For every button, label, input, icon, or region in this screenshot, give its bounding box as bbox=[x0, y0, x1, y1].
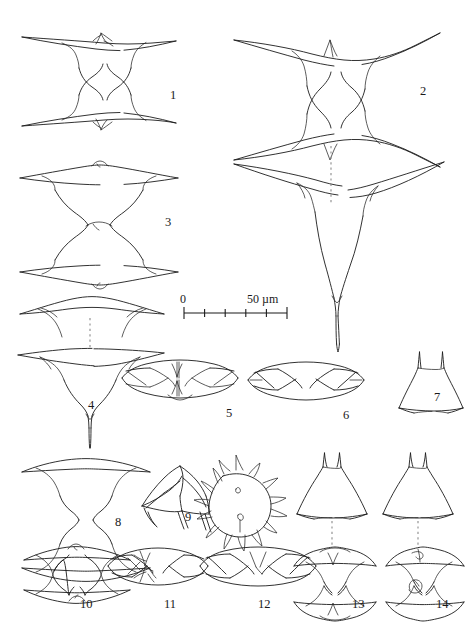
figure-label-8: 8 bbox=[115, 516, 121, 529]
figure-5-drawing bbox=[122, 360, 238, 400]
illustration-plate: 0 50 µm 1 2 3 4 5 6 7 8 9 10 11 12 13 14 bbox=[0, 0, 472, 641]
figure-label-1: 1 bbox=[170, 89, 176, 102]
figure-3-drawing bbox=[20, 161, 178, 289]
figure-14-drawing bbox=[383, 453, 464, 621]
figure-11-drawing bbox=[108, 548, 208, 585]
figure-label-2: 2 bbox=[420, 85, 426, 98]
scale-bar-graphic bbox=[184, 307, 287, 319]
figure-label-14: 14 bbox=[436, 598, 449, 611]
figure-label-10: 10 bbox=[80, 598, 93, 611]
figure-12-drawing bbox=[200, 547, 316, 586]
figure-6-drawing bbox=[248, 362, 364, 400]
figure-label-6: 6 bbox=[343, 409, 349, 422]
figure-7-drawing bbox=[399, 352, 463, 413]
scale-bar-end-label: 50 µm bbox=[247, 293, 278, 305]
figure-label-11: 11 bbox=[164, 598, 176, 611]
figure-8-drawing bbox=[22, 459, 150, 582]
figure-9-drawing bbox=[142, 455, 287, 551]
figure-label-3: 3 bbox=[165, 216, 171, 229]
figure-label-7: 7 bbox=[434, 391, 440, 404]
figure-13-drawing bbox=[294, 453, 376, 621]
figure-label-5: 5 bbox=[226, 407, 232, 420]
figure-4-drawing bbox=[18, 297, 164, 448]
figure-1-drawing bbox=[22, 33, 176, 130]
scale-bar-start-label: 0 bbox=[180, 293, 186, 305]
figure-label-4: 4 bbox=[88, 399, 94, 412]
plate-drawing bbox=[0, 0, 472, 641]
figure-label-9: 9 bbox=[185, 511, 191, 524]
figure-label-12: 12 bbox=[258, 598, 271, 611]
figure-label-13: 13 bbox=[352, 598, 365, 611]
